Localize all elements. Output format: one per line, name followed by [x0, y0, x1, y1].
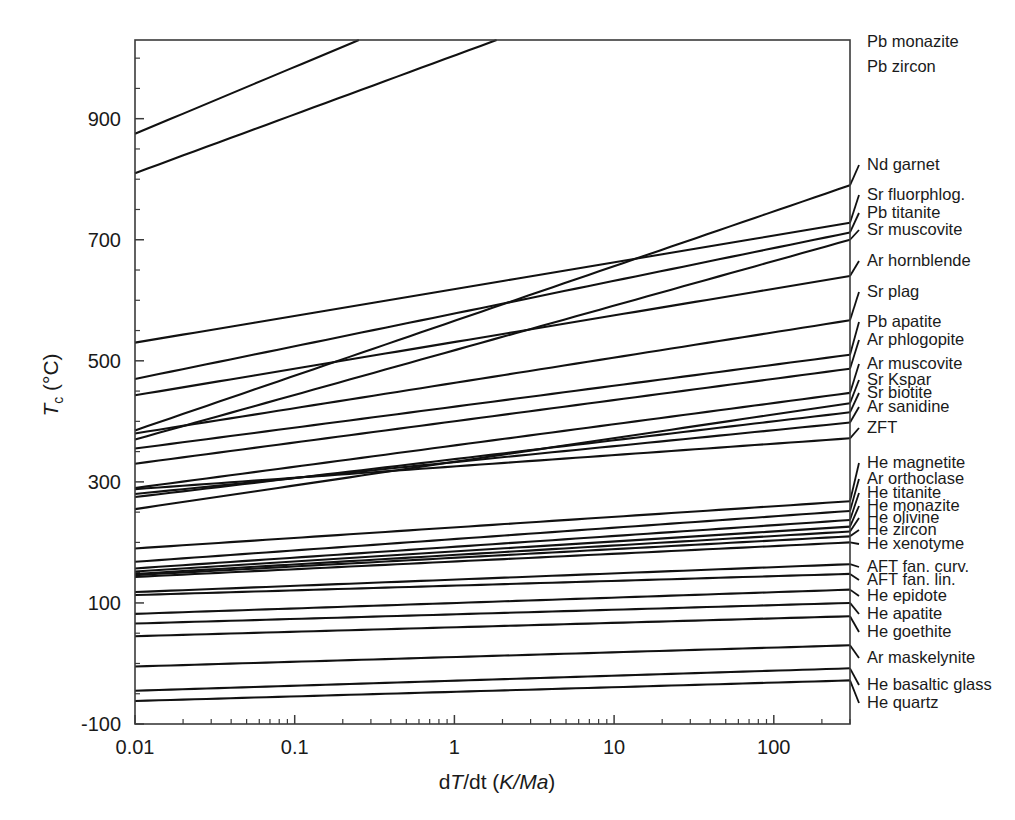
closure-temperature-figure: -100100300500700900 0.010.1110100 Pb mon… [0, 0, 1015, 820]
series-label: Sr plag [867, 282, 919, 300]
series-label: Ar sanidine [867, 397, 950, 415]
chart-canvas: -100100300500700900 0.010.1110100 Pb mon… [0, 0, 1015, 820]
series-label: He epidote [867, 586, 947, 604]
series-label: He xenotyme [867, 534, 964, 552]
series-label: He apatite [867, 604, 942, 622]
x-tick-label: 10 [603, 736, 625, 758]
x-axis-title-units: K/Ma [499, 770, 548, 793]
series-label: He goethite [867, 622, 951, 640]
svg-text:Tc (°C): Tc (°C) [39, 353, 66, 416]
x-axis-title-close: ) [548, 770, 555, 793]
y-tick-label: 900 [88, 108, 121, 130]
x-tick-label: 100 [757, 736, 790, 758]
x-tick-label: 0.01 [116, 736, 155, 758]
series-label: Pb apatite [867, 312, 941, 330]
series-label: Ar phlogopite [867, 330, 964, 348]
series-label: Pb monazite [867, 32, 959, 50]
series-label: Ar hornblende [867, 251, 971, 269]
x-axis-title-mid: /dt ( [463, 770, 499, 793]
y-tick-label: 700 [88, 229, 121, 251]
y-axis-title: Tc (°C) [39, 353, 66, 416]
y-tick-label: 300 [88, 471, 121, 493]
x-axis-title: dT/dt (K/Ma) [439, 770, 556, 793]
y-tick-label: 100 [88, 592, 121, 614]
series-label: Sr muscovite [867, 220, 962, 238]
series-label: Ar maskelynite [867, 648, 975, 666]
x-tick-label: 1 [449, 736, 460, 758]
series-label: He quartz [867, 693, 939, 711]
series-label: Sr fluorphlog. [867, 185, 965, 203]
x-tick-label: 0.1 [281, 736, 309, 758]
series-label: ZFT [867, 418, 897, 436]
y-tick-label: 500 [88, 350, 121, 372]
series-label: Pb zircon [867, 57, 936, 75]
series-label: Pb titanite [867, 203, 940, 221]
y-axis-title-sub: c [50, 397, 66, 404]
y-axis-title-units: (°C) [39, 353, 62, 396]
x-axis-title-d: d [439, 770, 451, 793]
series-label: Nd garnet [867, 155, 940, 173]
series-label: He basaltic glass [867, 675, 992, 693]
figure-background [0, 0, 1015, 820]
y-tick-label: -100 [81, 713, 121, 735]
